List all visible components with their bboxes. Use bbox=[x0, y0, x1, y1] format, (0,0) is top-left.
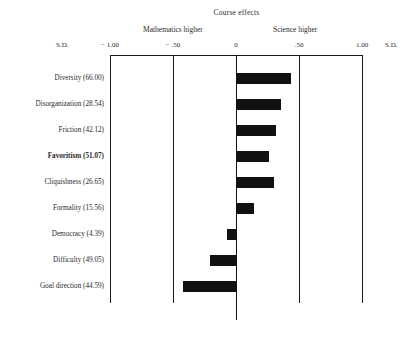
bar bbox=[236, 203, 254, 214]
x-tick-label-3: .50 bbox=[295, 41, 304, 49]
bar bbox=[210, 255, 236, 266]
category-label: Friction (42.12) bbox=[58, 126, 104, 134]
chart-title: Course effects bbox=[0, 8, 419, 17]
category-label: Diversity (66.00) bbox=[54, 74, 104, 82]
category-label: Disorganization (28.54) bbox=[35, 100, 104, 108]
category-label: Difficulty (49.05) bbox=[53, 256, 104, 264]
axis-end-label-right: S.D. bbox=[385, 41, 397, 49]
direction-label-science-higher: Science higher bbox=[273, 25, 317, 34]
axis-end-label-left: S.D. bbox=[56, 41, 68, 49]
gridline-1 bbox=[173, 55, 174, 303]
bar bbox=[236, 151, 269, 162]
x-tick-label-4: 1.00 bbox=[356, 41, 368, 49]
category-label: Cliquishness (26.65) bbox=[45, 178, 105, 186]
gridline-0 bbox=[110, 55, 111, 303]
bar bbox=[236, 177, 274, 188]
bar bbox=[236, 73, 291, 84]
direction-label-mathematics-higher: Mathematics higher bbox=[143, 25, 203, 34]
chart-figure: Course effects Mathematics higher Scienc… bbox=[0, 0, 419, 341]
category-labels: Diversity (66.00)Disorganization (28.54)… bbox=[0, 55, 104, 303]
x-tick-label-0: − 1.00 bbox=[101, 41, 119, 49]
plot-area bbox=[110, 55, 362, 303]
category-label: Favoritism (51.07) bbox=[48, 152, 104, 160]
category-label: Formality (15.56) bbox=[53, 204, 104, 212]
bar bbox=[227, 229, 236, 240]
gridline-4 bbox=[362, 55, 363, 303]
chart-title-text: Course effects bbox=[214, 8, 260, 17]
bar bbox=[183, 281, 236, 292]
category-label: Democracy (4.39) bbox=[52, 230, 104, 238]
bar bbox=[236, 125, 276, 136]
bar bbox=[236, 99, 281, 110]
x-tick-label-1: − .50 bbox=[166, 41, 180, 49]
x-tick-label-2: 0 bbox=[234, 41, 238, 49]
gridline-3 bbox=[299, 55, 300, 303]
category-label: Goal direction (44.59) bbox=[40, 282, 104, 290]
